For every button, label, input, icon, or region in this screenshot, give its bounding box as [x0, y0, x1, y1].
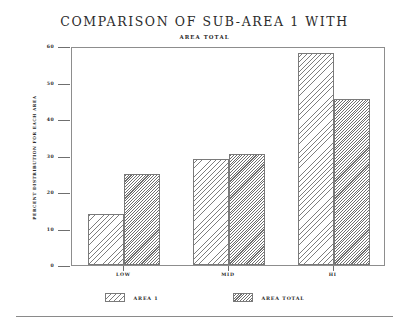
y-tick-label: 0 [8, 263, 54, 268]
legend-swatch-icon-area-total [233, 293, 253, 302]
y-tick-label: 10 [8, 227, 54, 232]
x-tick-mark [123, 266, 124, 271]
y-tick-label: 30 [8, 154, 54, 159]
y-tick-label: 60 [8, 44, 54, 49]
chart-subtitle: AREA TOTAL [0, 34, 409, 40]
legend-label-area-1: AREA 1 [134, 295, 159, 301]
x-tick-label-low: LOW [93, 272, 153, 277]
y-tick-label: 40 [8, 117, 54, 122]
plot-area [71, 47, 385, 266]
bar-hi-area-total [334, 99, 370, 265]
y-tick-mark [58, 230, 70, 231]
bar-mid-area-1 [193, 159, 229, 265]
legend-swatch-icon-area-1 [105, 293, 125, 302]
y-tick-mark [58, 157, 70, 158]
x-tick-mark [333, 266, 334, 271]
x-tick-mark [228, 266, 229, 271]
bar-mid-area-total [229, 154, 265, 265]
chart-figure: COMPARISON OF SUB-AREA 1 WITH AREA TOTAL… [0, 0, 409, 332]
footer-divider [16, 316, 393, 317]
legend-item-area-1: AREA 1 [105, 293, 159, 302]
y-tick-label: 50 [8, 81, 54, 86]
bar-low-area-1 [88, 214, 124, 265]
y-tick-label: 20 [8, 190, 54, 195]
y-tick-mark [58, 193, 70, 194]
bar-low-area-total [124, 174, 160, 265]
y-tick-mark [58, 266, 70, 267]
y-tick-mark [58, 84, 70, 85]
chart-legend: AREA 1 AREA TOTAL [0, 293, 409, 302]
legend-item-area-total: AREA TOTAL [233, 293, 305, 302]
bars-container [72, 48, 384, 265]
bar-hi-area-1 [298, 53, 334, 265]
x-tick-label-hi: HI [303, 272, 363, 277]
y-tick-mark [58, 47, 70, 48]
legend-label-area-total: AREA TOTAL [262, 295, 305, 301]
x-tick-label-mid: MID [198, 272, 258, 277]
chart-title: COMPARISON OF SUB-AREA 1 WITH [0, 14, 409, 29]
y-tick-mark [58, 120, 70, 121]
